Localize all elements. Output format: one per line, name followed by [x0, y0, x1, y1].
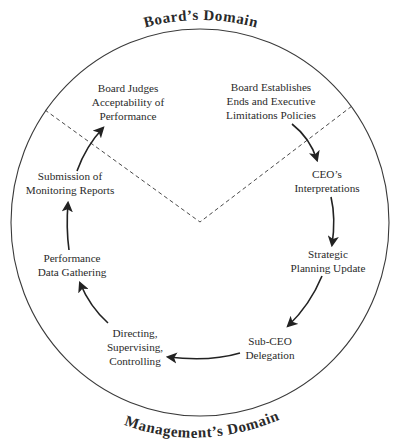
- svg-text:Submission of: Submission of: [38, 170, 103, 182]
- svg-text:Data Gathering: Data Gathering: [38, 266, 107, 278]
- node-sub-ceo-delegation: Sub-CEO Delegation: [245, 335, 294, 361]
- node-strategic-planning: Strategic Planning Update: [291, 248, 366, 274]
- svg-text:Controlling: Controlling: [109, 355, 161, 367]
- svg-text:Supervising,: Supervising,: [107, 341, 163, 353]
- governance-cycle-diagram: Board’s Domain Management’s Domain Board…: [0, 0, 395, 442]
- svg-text:CEO’s: CEO’s: [312, 168, 342, 180]
- node-board-judges: Board Judges Acceptability of Performanc…: [92, 82, 165, 122]
- arrow-strategic-to-subceo: [288, 276, 322, 326]
- svg-text:Performance: Performance: [43, 252, 100, 264]
- svg-text:Ends and Executive: Ends and Executive: [227, 95, 316, 107]
- svg-text:Sub-CEO: Sub-CEO: [248, 335, 292, 347]
- arrow-directing-to-performance: [80, 283, 108, 323]
- node-performance-data: Performance Data Gathering: [38, 252, 107, 278]
- node-directing: Directing, Supervising, Controlling: [107, 327, 163, 367]
- svg-text:Delegation: Delegation: [245, 349, 294, 361]
- svg-text:Limitations Policies: Limitations Policies: [226, 109, 316, 121]
- svg-text:Directing,: Directing,: [112, 327, 157, 339]
- node-ceo-interpretations: CEO’s Interpretations: [294, 168, 359, 194]
- arrow-performance-to-submission: [67, 203, 69, 250]
- domain-divider: [45, 106, 352, 222]
- svg-text:Board Establishes: Board Establishes: [231, 81, 311, 93]
- management-domain-label: Management’s Domain: [123, 407, 282, 440]
- svg-text:Monitoring Reports: Monitoring Reports: [26, 184, 115, 196]
- svg-text:Board Judges: Board Judges: [98, 82, 159, 94]
- node-board-establishes: Board Establishes Ends and Executive Lim…: [226, 81, 316, 121]
- svg-text:Acceptability of: Acceptability of: [92, 96, 165, 108]
- node-submission-reports: Submission of Monitoring Reports: [26, 170, 115, 196]
- svg-text:Strategic: Strategic: [308, 248, 348, 260]
- svg-text:Performance: Performance: [99, 110, 156, 122]
- arrow-subceo-to-directing: [168, 353, 240, 359]
- svg-text:Interpretations: Interpretations: [294, 182, 359, 194]
- svg-text:Planning Update: Planning Update: [291, 262, 366, 274]
- arrow-ceo-to-strategic: [331, 197, 334, 245]
- board-domain-label: Board’s Domain: [142, 7, 260, 31]
